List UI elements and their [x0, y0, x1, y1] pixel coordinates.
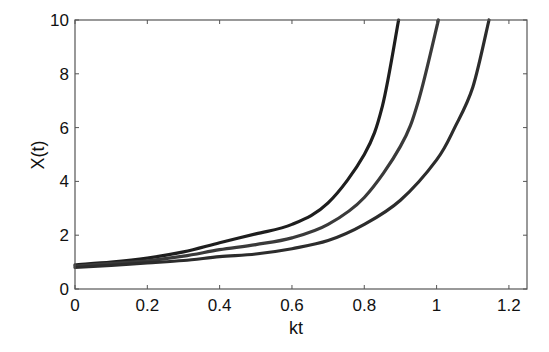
y-tick-label: 6	[60, 119, 69, 138]
y-axis-label: X(t)	[28, 141, 48, 170]
x-tick-label: 0.8	[352, 296, 376, 315]
series-layer	[75, 20, 489, 268]
x-tick-label: 0.4	[208, 296, 232, 315]
line-chart: 00.20.40.60.811.2 0246810 kt X(t)	[0, 0, 549, 352]
x-axis-label: kt	[289, 318, 303, 338]
series-line-curve-2	[75, 20, 438, 266]
x-tick-label: 0.2	[135, 296, 159, 315]
y-tick-label: 4	[60, 172, 69, 191]
series-line-curve-1	[75, 20, 399, 265]
y-tick-label: 2	[60, 226, 69, 245]
x-tick-label: 0.6	[280, 296, 304, 315]
x-axis-ticks: 00.20.40.60.811.2	[70, 20, 520, 315]
y-tick-label: 0	[60, 280, 69, 299]
series-line-curve-3	[75, 20, 489, 268]
x-tick-label: 0	[70, 296, 79, 315]
y-tick-label: 8	[60, 65, 69, 84]
y-axis-ticks: 0246810	[50, 11, 527, 299]
x-tick-label: 1	[432, 296, 441, 315]
x-tick-label: 1.2	[497, 296, 521, 315]
y-tick-label: 10	[50, 11, 69, 30]
